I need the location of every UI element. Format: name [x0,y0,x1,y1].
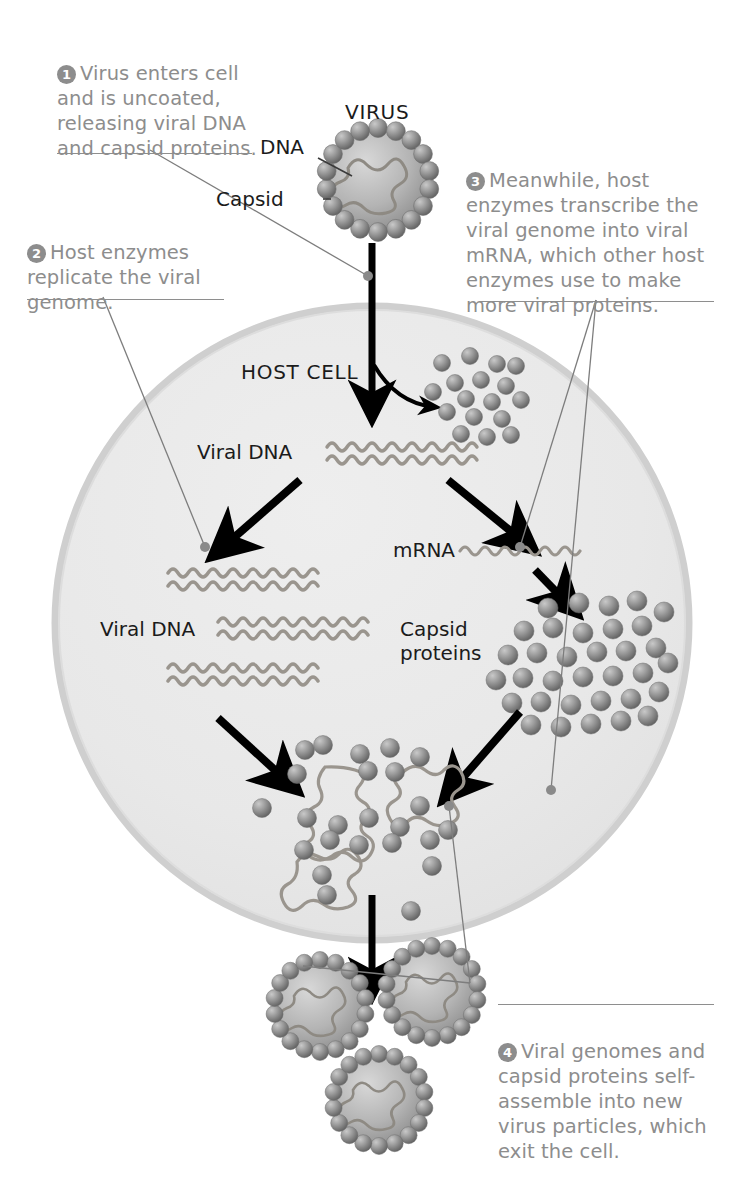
caption-rule-1 [57,153,252,154]
caption-step-3-text: Meanwhile, host enzymes transcribe the v… [466,169,704,317]
caption-step-2: 2Host enzymes replicate the viral genome… [27,215,227,315]
label-capsid: Capsid [216,187,284,211]
label-viral-dna-replicated: Viral DNA [100,617,195,641]
caption-step-1-text: Virus enters cell and is uncoated, relea… [57,62,257,160]
caption-step-4-text: Viral genomes and capsid proteins self-a… [498,1040,707,1163]
step-number-2: 2 [27,244,46,263]
caption-step-3: 3Meanwhile, host enzymes transcribe the … [466,143,714,318]
label-viral-dna-template: Viral DNA [197,440,292,464]
step-number-3: 3 [466,172,485,191]
virus-particle-entering [317,119,438,242]
progeny-virion-bottom [325,1046,433,1155]
progeny-virion-right [378,938,486,1047]
label-capsid-proteins: Capsid proteins [400,617,482,665]
step-number-4: 4 [498,1043,517,1062]
caption-rule-3 [480,301,714,302]
caption-step-1: 1Virus enters cell and is uncoated, rele… [57,36,277,161]
step-number-1: 1 [57,65,76,84]
caption-step-2-text: Host enzymes replicate the viral genome. [27,241,201,314]
label-host-cell: HOST CELL [241,360,358,384]
viral-replication-figure: VIRUS DNA Capsid HOST CELL Viral DNA mRN… [0,0,740,1179]
label-mrna: mRNA [393,538,455,562]
caption-rule-2 [27,299,224,300]
label-virus: VIRUS [345,100,409,124]
caption-step-4: 4Viral genomes and capsid proteins self-… [498,1014,724,1164]
caption-rule-4 [498,1004,714,1005]
